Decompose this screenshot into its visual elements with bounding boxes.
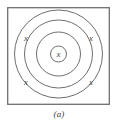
concentric-circles-diagram: x x x x x [7,7,110,105]
figure-caption: (a) [0,108,118,120]
x-label-center: x [56,49,61,59]
figure-container: x x x x x (a) [0,0,118,125]
x-label-upper-left: x [23,33,28,43]
figure-frame: x x x x x [7,7,110,105]
x-label-lower-right: x [88,77,93,87]
x-label-upper-right: x [88,33,93,43]
x-label-lower-left: x [23,77,28,87]
